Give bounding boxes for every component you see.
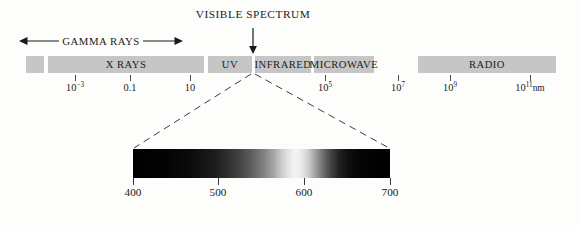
visible-tick-500-label: 500: [210, 186, 227, 198]
visible-tick-700-label: 700: [382, 186, 399, 198]
gamma-rays-label: GAMMA RAYS: [18, 33, 184, 49]
visible-tick-700-mark: [390, 178, 391, 185]
visible-tick-600-mark: [304, 178, 305, 185]
visible-tick-400-mark: [133, 178, 134, 185]
visible-tick-400-label: 400: [125, 186, 142, 198]
gamma-rays-label-text: GAMMA RAYS: [59, 35, 143, 47]
electromagnetic-spectrum-diagram: VISIBLE SPECTRUM GAMMA RAYS X RAYSUVINFR…: [0, 0, 582, 226]
visible-tick-600-label: 600: [296, 186, 313, 198]
visible-tick-500-mark: [218, 178, 219, 185]
gamma-rays-annotation: GAMMA RAYS: [18, 33, 184, 49]
